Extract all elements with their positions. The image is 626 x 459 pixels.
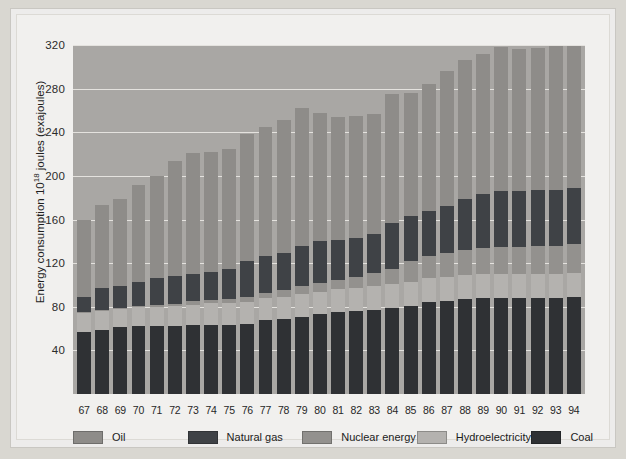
bar-segment-hydroelectricity-88 <box>458 275 472 299</box>
bar-segment-nuclear-energy-83 <box>367 273 381 286</box>
bar-segment-coal-78 <box>277 319 291 394</box>
legend-item-hydroelectricity[interactable]: Hydroelectricity <box>417 431 532 444</box>
bar-segment-coal-71 <box>150 326 164 394</box>
bar-segment-coal-74 <box>204 325 218 394</box>
bar-column-72[interactable] <box>168 45 182 394</box>
bar-segment-natural-gas-80 <box>313 241 327 282</box>
bar-segment-oil-93 <box>549 46 563 190</box>
legend-item-coal[interactable]: Coal <box>531 431 593 444</box>
x-tick-75: 75 <box>222 404 236 420</box>
bar-segment-oil-82 <box>349 116 363 238</box>
legend-item-oil[interactable]: Oil <box>73 431 188 444</box>
bar-segment-oil-88 <box>458 60 472 199</box>
bar-column-83[interactable] <box>367 45 381 394</box>
bar-segment-natural-gas-85 <box>404 216 418 261</box>
bar-segment-natural-gas-81 <box>331 240 345 279</box>
bar-column-84[interactable] <box>385 45 399 394</box>
bar-column-88[interactable] <box>458 45 472 394</box>
x-tick-88: 88 <box>458 404 472 420</box>
bar-segment-natural-gas-84 <box>385 223 399 269</box>
bar-segment-oil-68 <box>95 205 109 288</box>
bar-column-80[interactable] <box>313 45 327 394</box>
bar-column-91[interactable] <box>512 45 526 394</box>
figure-inner-frame: Energy consumption 1018 joules (exajoule… <box>16 14 610 440</box>
x-tick-89: 89 <box>476 404 490 420</box>
bar-column-85[interactable] <box>404 45 418 394</box>
x-tick-69: 69 <box>113 404 127 420</box>
bar-column-68[interactable] <box>95 45 109 394</box>
x-tick-76: 76 <box>240 404 254 420</box>
x-tick-73: 73 <box>186 404 200 420</box>
bar-column-90[interactable] <box>494 45 508 394</box>
bar-column-77[interactable] <box>259 45 273 394</box>
bar-column-71[interactable] <box>150 45 164 394</box>
bar-segment-oil-86 <box>422 84 436 211</box>
bar-segment-nuclear-energy-81 <box>331 280 345 290</box>
legend-label-hydroelectricity: Hydroelectricity <box>456 431 531 443</box>
bar-column-81[interactable] <box>331 45 345 394</box>
bar-segment-hydroelectricity-89 <box>476 274 490 298</box>
bar-segment-natural-gas-77 <box>259 256 273 293</box>
bar-column-70[interactable] <box>132 45 146 394</box>
bar-column-93[interactable] <box>549 45 563 394</box>
bar-segment-oil-67 <box>77 220 91 297</box>
bar-segment-nuclear-energy-94 <box>567 244 581 273</box>
bar-segment-oil-75 <box>222 149 236 269</box>
bar-segment-natural-gas-89 <box>476 194 490 247</box>
x-tick-70: 70 <box>132 404 146 420</box>
x-tick-82: 82 <box>349 404 363 420</box>
legend-swatch-nuclear-energy <box>302 431 332 444</box>
bar-segment-oil-80 <box>313 113 327 242</box>
bar-segment-coal-90 <box>494 298 508 394</box>
bar-segment-coal-75 <box>222 325 236 394</box>
x-tick-71: 71 <box>150 404 164 420</box>
legend-label-oil: Oil <box>112 431 125 443</box>
y-tick-280: 280 <box>45 83 65 95</box>
bar-segment-nuclear-energy-87 <box>440 253 454 277</box>
bar-segment-hydroelectricity-78 <box>277 297 291 319</box>
bar-segment-nuclear-energy-85 <box>404 261 418 282</box>
bar-column-74[interactable] <box>204 45 218 394</box>
bar-column-78[interactable] <box>277 45 291 394</box>
bar-segment-coal-79 <box>295 317 309 394</box>
bar-column-92[interactable] <box>531 45 545 394</box>
bar-segment-oil-70 <box>132 185 146 282</box>
bar-segment-hydroelectricity-73 <box>186 305 200 326</box>
bar-column-86[interactable] <box>422 45 436 394</box>
bar-segment-natural-gas-83 <box>367 234 381 273</box>
bar-segment-coal-68 <box>95 330 109 394</box>
y-tick-240: 240 <box>45 126 65 138</box>
bar-segment-oil-77 <box>259 127 273 256</box>
bar-column-87[interactable] <box>440 45 454 394</box>
bar-column-73[interactable] <box>186 45 200 394</box>
bar-segment-coal-91 <box>512 298 526 394</box>
bar-segment-oil-79 <box>295 108 309 245</box>
bar-segment-oil-83 <box>367 114 381 234</box>
bar-column-76[interactable] <box>240 45 254 394</box>
bar-segment-coal-93 <box>549 298 563 394</box>
bar-segment-coal-88 <box>458 299 472 394</box>
legend-item-natural-gas[interactable]: Natural gas <box>188 431 303 444</box>
bar-segment-coal-87 <box>440 301 454 394</box>
bar-column-79[interactable] <box>295 45 309 394</box>
bar-segment-natural-gas-92 <box>531 190 545 246</box>
bar-segment-natural-gas-73 <box>186 274 200 301</box>
legend-label-coal: Coal <box>570 431 593 443</box>
bar-column-89[interactable] <box>476 45 490 394</box>
bar-column-69[interactable] <box>113 45 127 394</box>
bar-segment-natural-gas-78 <box>277 253 291 290</box>
bar-column-75[interactable] <box>222 45 236 394</box>
y-tick-40: 40 <box>52 344 65 356</box>
bar-segment-natural-gas-74 <box>204 272 218 300</box>
bar-segment-coal-86 <box>422 302 436 394</box>
bar-segment-natural-gas-87 <box>440 206 454 253</box>
bar-column-94[interactable] <box>567 45 581 394</box>
x-tick-90: 90 <box>494 404 508 420</box>
bar-column-67[interactable] <box>77 45 91 394</box>
legend-item-nuclear-energy[interactable]: Nuclear energy <box>302 431 417 444</box>
x-axis-tick-labels: 6768697071727374757677787980818283848586… <box>73 404 585 420</box>
bar-column-82[interactable] <box>349 45 363 394</box>
bar-segment-natural-gas-76 <box>240 261 254 297</box>
x-tick-93: 93 <box>549 404 563 420</box>
bar-segment-natural-gas-79 <box>295 246 309 286</box>
